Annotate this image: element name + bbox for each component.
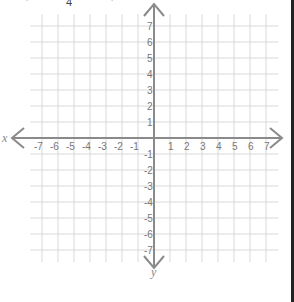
y-tick-label: -4 (144, 197, 153, 208)
y-tick-label: -6 (144, 229, 153, 240)
y-tick-label: 5 (147, 53, 153, 64)
x-tick-label: 2 (184, 141, 190, 152)
y-axis-label: y (150, 265, 157, 279)
y-tick-label: 1 (147, 117, 153, 128)
x-tick-label: -1 (130, 141, 139, 152)
y-tick-label: 3 (147, 85, 153, 96)
y-tick-label: -1 (144, 149, 153, 160)
page-border (291, 0, 294, 302)
y-tick-label: -7 (144, 245, 153, 256)
x-tick-label: -6 (50, 141, 59, 152)
y-tick-label: 4 (147, 69, 153, 80)
x-tick-label: 6 (248, 141, 254, 152)
x-tick-label: -5 (66, 141, 75, 152)
x-axis-label: x (1, 131, 8, 145)
x-tick-label: -4 (82, 141, 91, 152)
coordinate-plane-figure: ' 4 ' -7-6-5-4-3-2-112345677654321-1-2-3… (0, 0, 294, 302)
x-tick-label: 3 (200, 141, 206, 152)
y-tick-label: 6 (147, 37, 153, 48)
x-tick-label: 5 (232, 141, 238, 152)
coordinate-grid: -7-6-5-4-3-2-112345677654321-1-2-3-4-5-6… (0, 0, 294, 302)
x-tick-label: -2 (114, 141, 123, 152)
y-tick-label: 7 (147, 21, 153, 32)
x-tick-label: -3 (98, 141, 107, 152)
y-tick-label: -3 (144, 181, 153, 192)
x-tick-label: 4 (216, 141, 222, 152)
y-tick-label: -5 (144, 213, 153, 224)
y-tick-label: 2 (147, 101, 153, 112)
x-tick-label: 1 (168, 141, 174, 152)
x-tick-label: -7 (34, 141, 43, 152)
y-tick-label: -2 (144, 165, 153, 176)
x-tick-label: 7 (264, 141, 270, 152)
